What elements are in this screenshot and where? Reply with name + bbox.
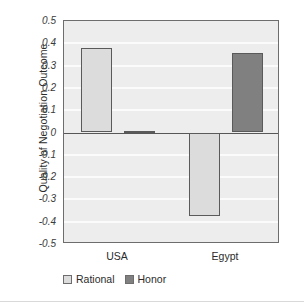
y-axis-tick-label: 0.3: [42, 59, 56, 70]
gridline: [64, 198, 278, 200]
y-axis-tick-label: -0.3: [39, 193, 56, 204]
plot-area: [63, 20, 279, 243]
y-axis-tick-label: 0.2: [42, 81, 56, 92]
x-axis-tick-label: USA: [106, 250, 128, 262]
bar-usa-honor: [124, 131, 155, 133]
bar-egypt-rational: [189, 133, 220, 217]
bar-egypt-honor: [232, 53, 263, 132]
legend-swatch-icon: [125, 275, 134, 284]
y-axis-tick-labels: 0.50.40.30.20.10-0.1-0.2-0.3-0.4-0.5: [18, 20, 60, 243]
legend-item-honor[interactable]: Honor: [125, 273, 167, 285]
gridline: [64, 221, 278, 223]
gridline: [64, 154, 278, 156]
zero-line: [64, 133, 278, 134]
y-axis-tick-label: -0.2: [39, 171, 56, 182]
y-axis-tick-label: 0.5: [42, 15, 56, 26]
gridline: [64, 176, 278, 178]
x-axis-category-labels: USAEgypt: [63, 250, 279, 266]
y-axis-tick-label: 0.1: [42, 104, 56, 115]
gridline: [64, 42, 278, 44]
chart-legend: RationalHonor: [63, 273, 166, 285]
bar-chart-figure: Quality of Negotiation Outcome 0.50.40.3…: [0, 0, 304, 307]
y-axis-tick-label: 0.4: [42, 37, 56, 48]
bottom-divider: [0, 301, 304, 302]
bar-usa-rational: [81, 48, 112, 133]
y-axis-tick-label: -0.4: [39, 215, 56, 226]
legend-item-rational[interactable]: Rational: [63, 273, 115, 285]
y-axis-tick-label: -0.1: [39, 148, 56, 159]
legend-item-label: Rational: [76, 273, 115, 285]
y-axis-tick-label: -0.5: [39, 238, 56, 249]
y-axis-tick-label: 0: [50, 126, 56, 137]
legend-item-label: Honor: [138, 273, 167, 285]
legend-swatch-icon: [63, 275, 72, 284]
x-axis-tick-label: Egypt: [212, 250, 239, 262]
